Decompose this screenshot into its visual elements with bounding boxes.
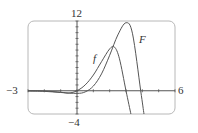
curves	[28, 23, 144, 114]
plot-frame	[28, 21, 175, 114]
axes	[28, 21, 175, 114]
chart-canvas	[0, 0, 198, 133]
curve-f	[28, 46, 131, 114]
curve-F	[28, 23, 144, 114]
y-min-label: −4	[68, 117, 80, 128]
F-curve-label: F	[139, 34, 146, 45]
x-max-label: 6	[178, 85, 184, 96]
y-max-label: 12	[71, 8, 82, 19]
x-min-label: −3	[6, 85, 18, 96]
f-curve-label: f	[93, 53, 96, 64]
